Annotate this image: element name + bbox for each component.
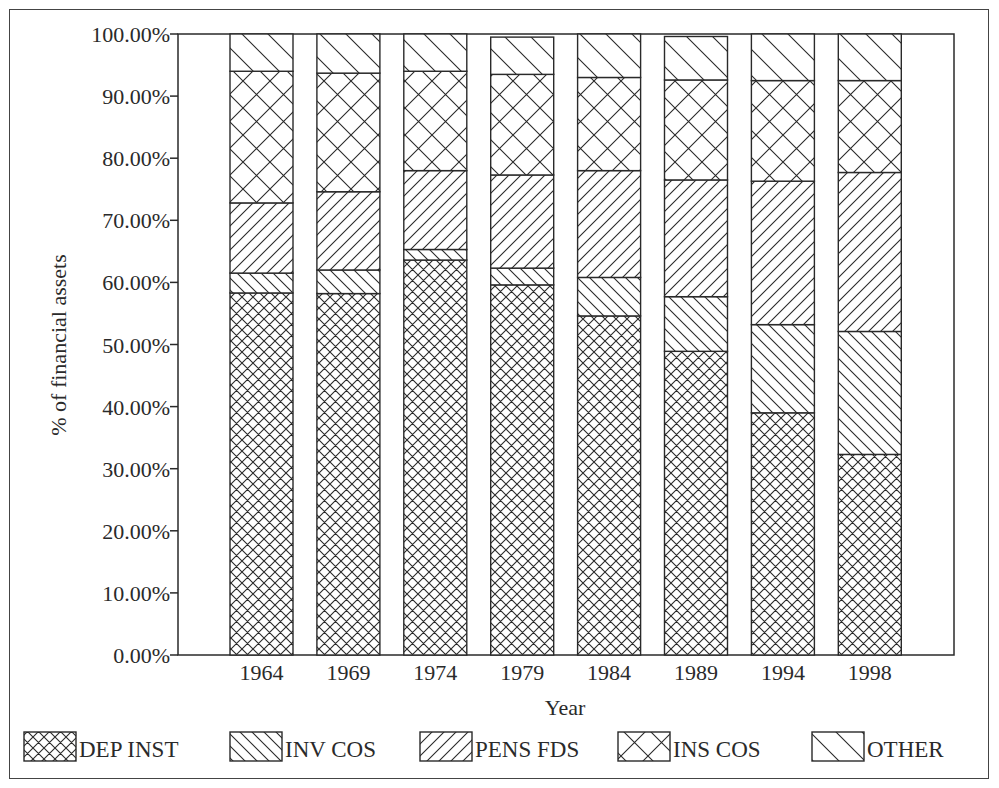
legend-swatch-back-diagonal-sparse xyxy=(812,732,864,761)
legend-swatch-forward-diagonal xyxy=(420,732,472,761)
y-tick-label: 70.00% xyxy=(102,208,170,233)
bar-segment-ins-cos xyxy=(230,71,293,203)
bar-segment-dep-inst xyxy=(404,260,467,655)
legend-label: DEP INST xyxy=(79,737,178,762)
legend-swatch-fine-crosshatch xyxy=(24,732,76,761)
bar-segment-pens-fds xyxy=(404,171,467,250)
legend-item-other: OTHER xyxy=(812,732,944,762)
legend-item-ins-cos: INS COS xyxy=(618,732,761,762)
y-tick-label: 50.00% xyxy=(102,333,170,358)
bar-segment-inv-cos xyxy=(578,277,641,316)
y-tick-label: 10.00% xyxy=(102,581,170,606)
x-axis-title: Year xyxy=(545,695,586,720)
bar-segment-other xyxy=(230,34,293,71)
bar-segment-ins-cos xyxy=(838,81,901,173)
x-tick-label: 1969 xyxy=(326,660,370,685)
legend-item-inv-cos: INV COS xyxy=(230,732,376,762)
bar-group-1974 xyxy=(404,34,467,655)
bar-segment-ins-cos xyxy=(578,77,641,170)
bar-segment-inv-cos xyxy=(317,270,380,294)
bars xyxy=(230,34,901,655)
y-tick-label: 90.00% xyxy=(102,84,170,109)
x-axis: 19641969197419791984198919941998 xyxy=(240,660,892,685)
legend-label: OTHER xyxy=(867,737,944,762)
bar-segment-inv-cos xyxy=(491,268,554,285)
legend-swatch-back-diagonal-dense xyxy=(230,732,282,761)
bar-segment-inv-cos xyxy=(751,325,814,413)
bar-group-1969 xyxy=(317,34,380,655)
bar-segment-dep-inst xyxy=(838,454,901,655)
bar-segment-other xyxy=(578,34,641,77)
plot-area xyxy=(178,34,954,655)
bar-segment-ins-cos xyxy=(317,73,380,192)
x-tick-label: 1979 xyxy=(500,660,544,685)
bar-group-1994 xyxy=(751,34,814,655)
bar-group-1989 xyxy=(665,36,728,655)
bar-segment-other xyxy=(751,34,814,81)
bar-segment-ins-cos xyxy=(665,80,728,180)
bar-segment-dep-inst xyxy=(751,413,814,655)
y-tick-label: 40.00% xyxy=(102,395,170,420)
bar-segment-pens-fds xyxy=(230,203,293,273)
bar-segment-other xyxy=(665,36,728,79)
x-tick-label: 1974 xyxy=(413,660,457,685)
legend-label: PENS FDS xyxy=(475,737,579,762)
bar-segment-pens-fds xyxy=(578,171,641,278)
bar-segment-inv-cos xyxy=(404,249,467,260)
legend: DEP INSTINV COSPENS FDSINS COSOTHER xyxy=(24,732,944,762)
y-tick-label: 0.00% xyxy=(113,643,170,668)
bar-group-1964 xyxy=(230,34,293,655)
x-tick-label: 1989 xyxy=(674,660,718,685)
bar-segment-pens-fds xyxy=(317,192,380,270)
x-tick-label: 1984 xyxy=(587,660,631,685)
bar-segment-dep-inst xyxy=(230,293,293,655)
legend-label: INV COS xyxy=(285,737,376,762)
bar-segment-pens-fds xyxy=(665,180,728,297)
bar-segment-dep-inst xyxy=(665,351,728,655)
legend-item-dep-inst: DEP INST xyxy=(24,732,178,762)
bar-segment-dep-inst xyxy=(317,294,380,655)
bar-segment-dep-inst xyxy=(578,316,641,655)
bar-segment-pens-fds xyxy=(838,172,901,331)
legend-label: INS COS xyxy=(673,737,761,762)
bar-group-1984 xyxy=(578,34,641,655)
legend-item-pens-fds: PENS FDS xyxy=(420,732,579,762)
y-tick-label: 100.00% xyxy=(91,22,170,47)
x-tick-label: 1964 xyxy=(240,660,284,685)
bar-segment-ins-cos xyxy=(751,81,814,182)
y-axis: 0.00%10.00%20.00%30.00%40.00%50.00%60.00… xyxy=(91,22,178,668)
bar-segment-inv-cos xyxy=(838,331,901,454)
bar-segment-pens-fds xyxy=(751,181,814,324)
bar-segment-inv-cos xyxy=(230,273,293,293)
y-tick-label: 80.00% xyxy=(102,146,170,171)
legend-swatch-coarse-crosshatch xyxy=(618,732,670,761)
bar-segment-ins-cos xyxy=(404,71,467,170)
y-tick-label: 60.00% xyxy=(102,270,170,295)
bar-segment-other xyxy=(317,34,380,73)
bar-segment-ins-cos xyxy=(491,74,554,175)
y-axis-title: % of financial assets xyxy=(46,254,71,435)
bar-group-1998 xyxy=(838,34,901,655)
y-tick-label: 20.00% xyxy=(102,519,170,544)
bar-segment-other xyxy=(838,34,901,81)
stacked-bar-chart: 0.00%10.00%20.00%30.00%40.00%50.00%60.00… xyxy=(0,0,999,788)
bar-segment-dep-inst xyxy=(491,285,554,655)
bar-segment-pens-fds xyxy=(491,175,554,268)
y-tick-label: 30.00% xyxy=(102,457,170,482)
bar-segment-inv-cos xyxy=(665,297,728,352)
bar-segment-other xyxy=(404,34,467,71)
bar-group-1979 xyxy=(491,37,554,655)
x-tick-label: 1994 xyxy=(761,660,805,685)
x-tick-label: 1998 xyxy=(848,660,892,685)
bar-segment-other xyxy=(491,37,554,74)
